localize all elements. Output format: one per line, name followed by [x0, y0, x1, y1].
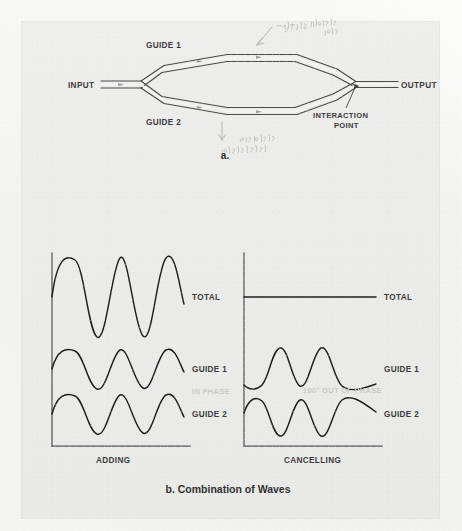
cancelling-guide2-label: GUIDE 2 — [384, 410, 419, 419]
wave-charts: TOTAL GUIDE 1 GUIDE 2 IN PHASE ADDING — [52, 253, 419, 495]
output-label: OUTPUT — [401, 81, 437, 90]
adding-guide2-wave — [52, 394, 184, 434]
chart-adding: TOTAL GUIDE 1 GUIDE 2 IN PHASE ADDING — [52, 253, 230, 465]
adding-phase-note: IN PHASE — [192, 387, 230, 396]
handwritten-annotation-top — [257, 19, 337, 45]
scanned-page: INPUT OUTPUT GUIDE 1 GUIDE 2 INTERACTION… — [0, 0, 462, 531]
part-a-letter: a. — [221, 150, 230, 161]
cancelling-phase-note: 180° OUT OF PHASE — [303, 386, 382, 395]
cancelling-guide1-wave — [244, 348, 376, 390]
guide-1-waveguide — [141, 55, 356, 89]
interaction-point-label-line2: POINT — [334, 121, 359, 130]
adding-guide2-label: GUIDE 2 — [192, 410, 227, 419]
adding-guide1-wave — [52, 349, 184, 389]
output-waveguide — [356, 82, 398, 88]
chart-cancelling: TOTAL GUIDE 1 GUIDE 2 180° OUT OF PHASE … — [244, 253, 419, 465]
interaction-point-label-line1: INTERACTION — [313, 111, 368, 120]
guide-2-label: GUIDE 2 — [146, 118, 181, 127]
adding-total-wave — [52, 256, 184, 337]
input-label: INPUT — [68, 81, 94, 90]
figure-diagram: INPUT OUTPUT GUIDE 1 GUIDE 2 INTERACTION… — [0, 0, 462, 531]
interaction-point-callout: INTERACTION POINT — [313, 84, 368, 130]
part-b-caption: b. Combination of Waves — [165, 483, 290, 495]
cancelling-x-label: CANCELLING — [284, 456, 341, 465]
cancelling-guide2-wave — [244, 398, 376, 437]
guide-1-label: GUIDE 1 — [146, 41, 181, 50]
cancelling-total-label: TOTAL — [384, 293, 412, 302]
cancelling-guide1-label: GUIDE 1 — [384, 365, 419, 374]
adding-x-label: ADDING — [96, 456, 130, 465]
interferometer-diagram: INPUT OUTPUT GUIDE 1 GUIDE 2 INTERACTION… — [68, 19, 437, 161]
adding-total-label: TOTAL — [192, 293, 220, 302]
guide-2-waveguide — [141, 81, 356, 115]
adding-guide1-label: GUIDE 1 — [192, 365, 227, 374]
